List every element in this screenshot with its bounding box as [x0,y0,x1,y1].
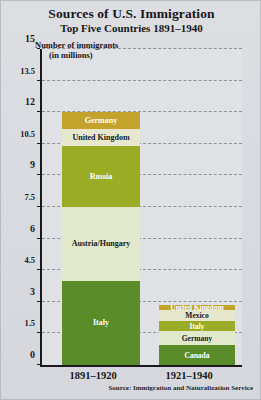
bar-segment-germany[interactable]: Germany [62,112,140,129]
x-axis-category-label: 1891–1920 [45,370,141,381]
x-axis-category-label: 1921–1940 [141,370,237,381]
y-axis-tick-label: 12 [25,96,35,107]
bar-segment-label: Austria/Hungary [72,239,131,248]
bar-segment-italy[interactable]: Italy [62,281,140,365]
bar-1891–1920[interactable]: ItalyAustria/HungaryRussiaUnited Kingdom… [62,112,140,365]
source-note: Source: Immigration and Naturalization S… [108,384,253,392]
bar-segment-germany[interactable]: Germany [159,331,235,345]
bar-segment-canada[interactable]: Canada [159,345,235,365]
bar-segment-russia[interactable]: Russia [62,146,140,207]
bar-1921–1940[interactable]: CanadaGermanyItalyMexicoUnited Kingdom [159,305,235,365]
y-axis-tick-label: 13.5 [20,66,35,76]
y-axis-tick-label: 15 [25,33,35,44]
bar-segment-label: Canada [184,351,209,360]
bar-segment-united-kingdom[interactable]: United Kingdom [159,305,235,310]
bar-segment-label: United Kingdom [72,133,129,142]
bar-segment-label: Germany [182,334,212,343]
bar-segment-austria-hungary[interactable]: Austria/Hungary [62,207,140,281]
x-axis-line [40,365,242,367]
y-axis-tick-label: 7.5 [24,192,35,202]
y-axis-tick-label: 3 [30,285,35,296]
y-axis-tick-label: 10.5 [20,129,35,139]
title-block: Sources of U.S. Immigration Top Five Cou… [1,6,261,35]
bar-segment-label: Russia [90,172,113,181]
bar-segment-label: Italy [93,318,109,327]
bar-segment-italy[interactable]: Italy [159,321,235,332]
chart-figure: Sources of U.S. Immigration Top Five Cou… [0,0,261,400]
bar-segment-united-kingdom[interactable]: United Kingdom [62,129,140,146]
chart-subtitle: Top Five Countries 1891–1940 [1,22,261,35]
bar-segment-mexico[interactable]: Mexico [159,310,235,321]
y-axis-line [40,49,42,367]
y-axis-tick-label: 9 [30,159,35,170]
bar-segment-label: Germany [85,116,117,125]
bar-segment-label: United Kingdom [170,305,224,310]
bar-segment-label: Mexico [185,311,208,320]
y-axis-tick-label: 1.5 [24,318,35,328]
y-axis-tick-label: 6 [30,222,35,233]
page-title: Sources of U.S. Immigration [1,6,261,21]
plot-area: 01.534.567.5910.51213.515 ItalyAustria/H… [40,49,242,367]
bar-segment-label: Italy [190,322,205,331]
y-axis-tick-label: 0 [30,349,35,360]
y-axis-tick-label: 4.5 [24,255,35,265]
gridline [42,80,242,81]
y-axis-label-line2: (in millions) [35,51,118,61]
y-axis-label: Number of immigrants (in millions) [35,41,118,60]
